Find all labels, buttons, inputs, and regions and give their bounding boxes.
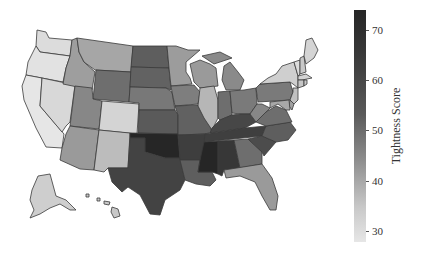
state-ME[interactable] [304, 38, 318, 64]
colorbar-tick-mark [366, 80, 369, 81]
state-FL[interactable] [224, 164, 278, 210]
state-AZ[interactable] [60, 126, 99, 170]
colorbar-tick-mark [366, 181, 369, 182]
state-AK[interactable] [30, 174, 76, 218]
state-CO[interactable] [99, 101, 139, 134]
colorbar-tick-mark [366, 130, 369, 131]
colorbar-tick-60: 60 [372, 75, 383, 86]
state-SD[interactable] [130, 67, 171, 90]
state-HI[interactable] [86, 194, 120, 218]
colorbar-title: Tightness Score [389, 88, 404, 165]
state-NM[interactable] [94, 130, 130, 172]
colorbar-tick-40: 40 [372, 176, 383, 187]
state-CT[interactable] [298, 80, 304, 88]
state-MA[interactable] [298, 74, 312, 80]
state-ND[interactable] [131, 46, 169, 68]
state-IA[interactable] [171, 85, 200, 106]
state-PA[interactable] [256, 82, 293, 102]
colorbar-tick-50: 50 [372, 125, 383, 136]
colorbar [354, 10, 366, 242]
colorbar-tick-30: 30 [372, 226, 383, 237]
state-WY[interactable] [93, 70, 131, 102]
state-KS[interactable] [138, 110, 178, 134]
colorbar-tick-mark [366, 30, 369, 31]
colorbar-tick-70: 70 [372, 25, 383, 36]
state-RI[interactable] [304, 80, 307, 86]
colorbar-tick-mark [366, 231, 369, 232]
